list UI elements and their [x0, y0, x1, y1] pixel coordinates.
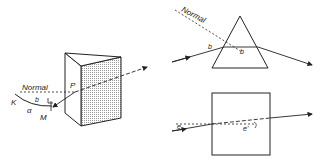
- prism-3d-panel: Normal P K b α M: [11, 53, 147, 126]
- label-normal-2: Normal: [180, 5, 207, 25]
- label-p: P: [70, 81, 76, 90]
- emergent-ray-3: [270, 114, 312, 118]
- label-b-2b: b: [240, 48, 244, 55]
- internal-ray-3: [212, 118, 270, 124]
- right-angle-mark: [48, 98, 53, 103]
- prism-front-face: [81, 57, 121, 126]
- prism-triangle: [212, 16, 268, 68]
- label-b-2a: b: [208, 43, 212, 50]
- prism-2d-panel: Normal b b: [172, 5, 312, 68]
- label-normal: Normal: [22, 83, 48, 92]
- label-e-prime: e': [243, 125, 249, 132]
- emergent-ray-2: [258, 47, 312, 65]
- label-k: K: [11, 98, 17, 107]
- arc-km: [15, 94, 52, 106]
- incident-arrow-2: [172, 57, 190, 62]
- angle-arc-e-prime: [254, 122, 256, 128]
- label-e: e: [177, 123, 181, 130]
- optics-diagram: Normal P K b α M Normal b b e e': [0, 0, 320, 166]
- label-m: M: [40, 113, 47, 122]
- label-b: b: [35, 96, 39, 103]
- label-alpha: α: [27, 106, 32, 115]
- slab-2d-panel: e e': [172, 93, 312, 155]
